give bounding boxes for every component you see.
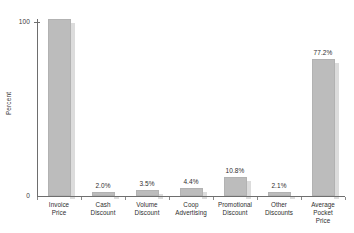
bar-group: 2.0% <box>81 19 125 196</box>
bar-value-label: 4.4% <box>169 178 213 185</box>
x-tick <box>301 197 302 200</box>
bar-value-label: 10.8% <box>213 167 257 174</box>
pocket-price-waterfall-chart: 100 0 Percent 2.0%3.5%4.4%10.8%2.1%77.2%… <box>0 0 354 233</box>
bar-value-label: 77.2% <box>301 49 345 56</box>
x-tick <box>257 197 258 200</box>
bar-value-label: 3.5% <box>125 180 169 187</box>
bar-coop-advertising <box>180 188 203 196</box>
plot-area: 2.0%3.5%4.4%10.8%2.1%77.2% <box>37 19 345 196</box>
bar-group: 3.5% <box>125 19 169 196</box>
x-axis-line <box>37 196 345 197</box>
x-tick <box>169 197 170 200</box>
y-axis-title: Percent <box>5 81 12 127</box>
category-label-line: Price <box>297 217 349 225</box>
x-tick <box>37 197 38 200</box>
category-label-average-pocket-price: AveragePocketPrice <box>297 201 349 225</box>
bar-group: 4.4% <box>169 19 213 196</box>
bar-invoice-price <box>48 19 71 196</box>
bar-group: 77.2% <box>301 19 345 196</box>
bar-average-pocket-price <box>312 59 335 196</box>
bar-promotional-discount <box>224 177 247 196</box>
bar-group: 2.1% <box>257 19 301 196</box>
y-tick-label-100: 100 <box>6 18 30 25</box>
x-tick <box>81 197 82 200</box>
x-tick <box>345 197 346 200</box>
bar-value-label: 2.1% <box>257 182 301 189</box>
x-tick <box>213 197 214 200</box>
x-tick <box>125 197 126 200</box>
bar-group <box>37 19 81 196</box>
category-label-line: Average <box>297 201 349 209</box>
bar-group: 10.8% <box>213 19 257 196</box>
y-tick-label-0: 0 <box>6 192 30 199</box>
bar-value-label: 2.0% <box>81 182 125 189</box>
category-label-line: Pocket <box>297 209 349 217</box>
